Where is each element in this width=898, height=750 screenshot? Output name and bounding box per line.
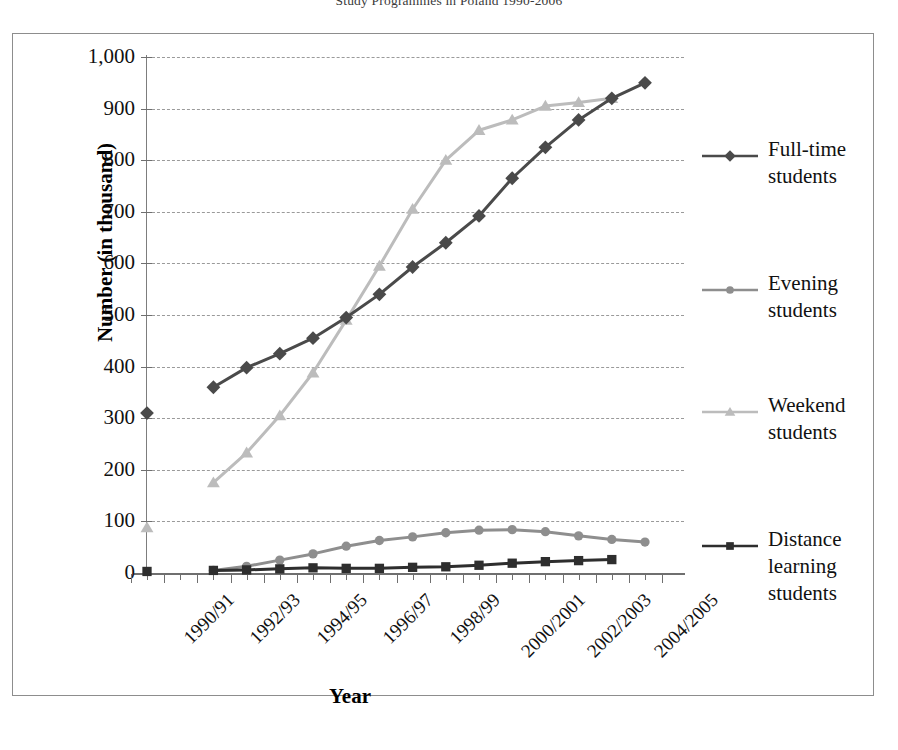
x-tick-mark bbox=[264, 574, 265, 583]
y-tick-label: 700 bbox=[35, 201, 135, 222]
x-tick-mark bbox=[297, 574, 298, 583]
data-point-marker bbox=[408, 532, 417, 541]
x-tick-mark bbox=[629, 574, 630, 583]
series-line bbox=[213, 83, 645, 387]
series-weekend-students bbox=[141, 92, 619, 532]
y-tick-label: 600 bbox=[35, 252, 135, 273]
x-tick-mark-minor bbox=[612, 574, 613, 580]
data-point-marker bbox=[375, 536, 384, 545]
x-tick-mark-minor bbox=[313, 574, 314, 580]
x-tick-mark bbox=[563, 574, 564, 583]
x-axis-title: Year bbox=[0, 684, 700, 709]
x-tick-mark-minor bbox=[545, 574, 546, 580]
data-point-marker bbox=[541, 557, 550, 566]
data-point-marker bbox=[306, 331, 320, 345]
series-line bbox=[213, 98, 611, 482]
x-tick-mark-minor bbox=[446, 574, 447, 580]
legend-triangle-icon bbox=[700, 405, 760, 419]
legend-label: Eveningstudents bbox=[768, 270, 883, 324]
data-point-marker bbox=[508, 525, 517, 534]
y-tick-label: 100 bbox=[35, 510, 135, 531]
y-tick-label: 300 bbox=[35, 407, 135, 428]
legend-label-line: students bbox=[768, 163, 883, 190]
x-tick-mark-minor bbox=[379, 574, 380, 580]
data-point-marker bbox=[474, 526, 483, 535]
y-tick-label: 200 bbox=[35, 459, 135, 480]
data-point-marker bbox=[308, 563, 317, 572]
data-point-marker bbox=[308, 549, 317, 558]
data-point-marker bbox=[240, 361, 254, 375]
data-point-marker bbox=[607, 555, 616, 564]
chart-title: Study Programmes in Poland 1990-2006 bbox=[0, 0, 898, 9]
legend-label-line: learning bbox=[768, 553, 883, 580]
data-point-marker bbox=[638, 76, 652, 90]
data-point-marker bbox=[342, 564, 351, 573]
series-distance-learning-students bbox=[142, 555, 616, 576]
plot-area bbox=[147, 57, 684, 573]
x-tick-mark bbox=[197, 574, 198, 583]
legend-label-line: Full-time bbox=[768, 136, 883, 163]
x-tick-mark bbox=[397, 574, 398, 583]
data-point-marker bbox=[275, 555, 284, 564]
x-tick-mark-minor bbox=[247, 574, 248, 580]
data-point-marker bbox=[273, 347, 287, 361]
data-point-marker bbox=[607, 535, 616, 544]
legend-label-line: Distance bbox=[768, 526, 883, 553]
x-tick-mark-minor bbox=[579, 574, 580, 580]
data-point-marker bbox=[375, 564, 384, 573]
y-tick-label: 800 bbox=[35, 149, 135, 170]
data-point-marker bbox=[142, 567, 151, 576]
x-tick-mark bbox=[430, 574, 431, 583]
x-tick-mark bbox=[463, 574, 464, 583]
legend-label: Full-timestudents bbox=[768, 136, 883, 190]
legend-label-line: students bbox=[768, 297, 883, 324]
data-point-marker bbox=[207, 380, 221, 394]
x-tick-mark bbox=[496, 574, 497, 583]
data-point-marker bbox=[541, 527, 550, 536]
x-tick-mark bbox=[596, 574, 597, 583]
x-tick-mark bbox=[662, 574, 663, 583]
series-layer bbox=[147, 57, 684, 573]
x-tick-mark bbox=[231, 574, 232, 583]
x-tick-mark-minor bbox=[180, 574, 181, 580]
x-tick-mark bbox=[363, 574, 364, 583]
data-point-marker bbox=[275, 564, 284, 573]
legend-diamond-icon bbox=[700, 149, 760, 163]
x-tick-mark bbox=[164, 574, 165, 583]
data-point-marker bbox=[342, 542, 351, 551]
data-point-marker bbox=[373, 260, 386, 271]
chart-figure: Study Programmes in Poland 1990-2006 Num… bbox=[0, 0, 898, 750]
data-point-marker bbox=[508, 559, 517, 568]
x-tick-mark-minor bbox=[413, 574, 414, 580]
x-tick-mark-minor bbox=[479, 574, 480, 580]
y-tick-label: 400 bbox=[35, 356, 135, 377]
x-tick-mark-minor bbox=[645, 574, 646, 580]
data-point-marker bbox=[408, 563, 417, 572]
legend-label: Weekendstudents bbox=[768, 392, 883, 446]
data-point-marker bbox=[474, 561, 483, 570]
y-tick-label: 900 bbox=[35, 98, 135, 119]
legend-label-line: Evening bbox=[768, 270, 883, 297]
y-tick-label: 1,000 bbox=[35, 46, 135, 67]
series-full-time-students bbox=[140, 76, 652, 420]
legend-label: Distancelearningstudents bbox=[768, 526, 883, 607]
data-point-marker bbox=[441, 528, 450, 537]
x-tick-mark-minor bbox=[280, 574, 281, 580]
data-point-marker bbox=[574, 531, 583, 540]
legend-circle-icon bbox=[700, 283, 760, 297]
data-point-marker bbox=[441, 562, 450, 571]
y-tick-label: 0 bbox=[35, 562, 135, 583]
y-axis-title: Number (in thousand) bbox=[93, 93, 118, 393]
y-tick-label: 500 bbox=[35, 304, 135, 325]
legend-label-line: Weekend bbox=[768, 392, 883, 419]
x-tick-mark bbox=[131, 574, 132, 583]
data-point-marker bbox=[574, 556, 583, 565]
x-tick-mark-minor bbox=[512, 574, 513, 580]
data-point-marker bbox=[242, 565, 251, 574]
x-tick-mark bbox=[330, 574, 331, 583]
legend-label-line: students bbox=[768, 580, 883, 607]
x-tick-mark bbox=[529, 574, 530, 583]
legend-square-icon bbox=[700, 539, 760, 553]
data-point-marker bbox=[209, 566, 218, 575]
data-point-marker bbox=[640, 537, 649, 546]
